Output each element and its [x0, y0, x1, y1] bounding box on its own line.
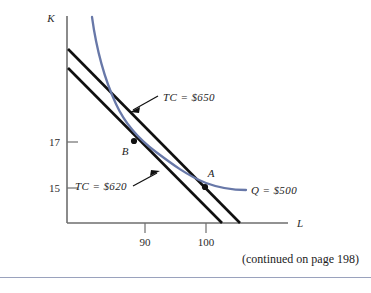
- data-point-b: [131, 138, 137, 144]
- isocost-line-650: [68, 49, 240, 223]
- x-tick-marks: [145, 223, 206, 233]
- y-tick-label-17: 17: [49, 136, 61, 148]
- footer-divider: [0, 277, 371, 278]
- isocost-label-650: TC = $650: [163, 91, 215, 103]
- leader-line-620: [133, 173, 157, 186]
- data-point-a-label: A: [207, 167, 215, 179]
- continued-note: (continued on page 198): [242, 252, 359, 267]
- data-point-a: [202, 184, 208, 190]
- leader-line-650: [133, 96, 158, 110]
- data-point-b-label: B: [122, 145, 129, 157]
- leader-arrowhead-620: [150, 170, 160, 176]
- annotation-leader-620: [133, 170, 160, 186]
- y-axis-label: K: [46, 12, 55, 24]
- isocost-label-620: TC = $620: [75, 180, 127, 192]
- isoquant-isocost-chart: K L 17 15 90 100 TC = $650 TC = $620 Q =…: [0, 0, 371, 293]
- y-tick-label-15: 15: [49, 182, 61, 194]
- figure-container: K L 17 15 90 100 TC = $650 TC = $620 Q =…: [0, 0, 371, 293]
- annotation-leader-650: [130, 96, 158, 113]
- leader-arrowhead-650: [130, 107, 140, 113]
- isoquant-label-500: Q = $500: [251, 184, 297, 196]
- isoquant-curve-500: [92, 17, 246, 190]
- x-tick-label-90: 90: [140, 236, 152, 248]
- x-axis-label: L: [296, 217, 303, 229]
- x-tick-label-100: 100: [198, 236, 215, 248]
